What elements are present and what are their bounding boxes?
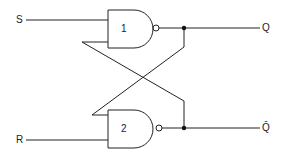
sr-latch-diagram: S R 1 2 Q Q̄ xyxy=(0,0,286,157)
inversion-bubble-2 xyxy=(156,125,162,131)
feedback-q-to-gate2 xyxy=(92,28,184,115)
nand-gate-1 xyxy=(108,10,153,48)
inversion-bubble-1 xyxy=(153,25,159,31)
gate-label-1: 1 xyxy=(121,24,127,34)
input-label-r: R xyxy=(16,135,23,145)
circuit-drawing xyxy=(0,0,286,157)
output-label-qbar: Q̄ xyxy=(262,123,270,133)
gate-label-2: 2 xyxy=(121,124,127,134)
output-label-q: Q xyxy=(262,23,270,33)
junction-dot-q xyxy=(182,26,186,30)
input-label-s: S xyxy=(16,15,23,25)
nand-gate-2 xyxy=(108,110,153,148)
junction-dot-qbar xyxy=(182,126,186,130)
